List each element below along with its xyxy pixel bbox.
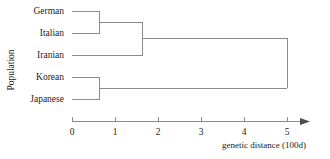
dendrogram-links	[72, 11, 287, 99]
x-tick-label-5: 5	[278, 127, 296, 137]
x-tick-label-1: 1	[106, 127, 124, 137]
x-tick-label-2: 2	[149, 127, 167, 137]
x-tick-label-0: 0	[63, 127, 81, 137]
dendrogram-figure: Population German Italian Iranian Korean…	[0, 0, 330, 159]
x-tick-label-4: 4	[235, 127, 253, 137]
x-axis	[72, 117, 303, 122]
x-axis-title: genetic distance (100d)	[222, 140, 306, 150]
x-tick-label-3: 3	[192, 127, 210, 137]
x-axis-arrow-icon	[300, 118, 310, 125]
